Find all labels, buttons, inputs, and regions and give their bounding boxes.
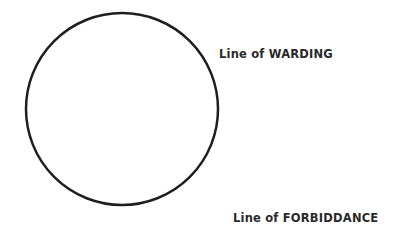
circle-outline [26, 13, 218, 205]
label-line-of-warding: Line of WARDING [219, 47, 333, 61]
diagram-canvas: Line of WARDING Line of FORBIDDANCE [0, 0, 418, 228]
label-line-of-forbiddance: Line of FORBIDDANCE [233, 211, 378, 225]
warding-circle [0, 0, 418, 228]
